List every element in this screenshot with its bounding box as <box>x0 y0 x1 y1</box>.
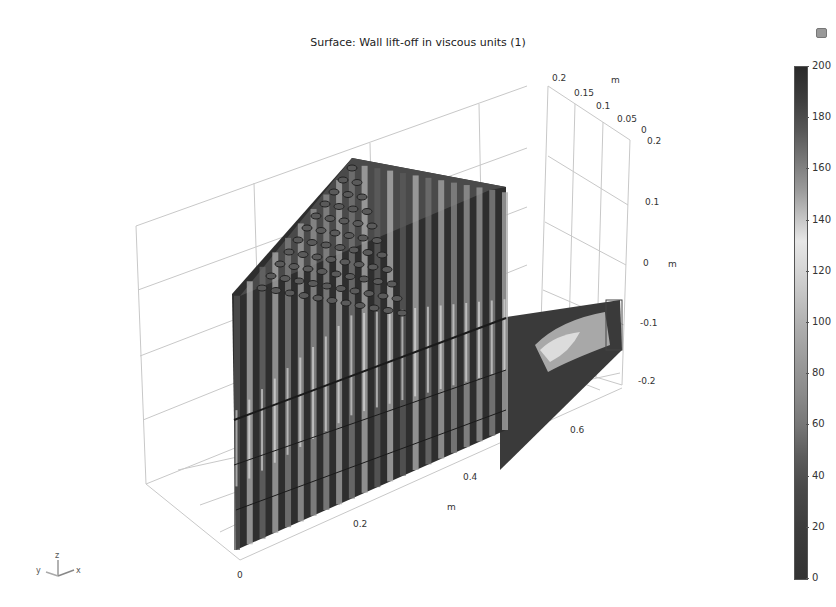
triad-y-label: y <box>36 566 41 575</box>
colorbar-tick-label: 60 <box>812 418 825 429</box>
triad-z-label: z <box>55 551 59 560</box>
3d-plot-area[interactable] <box>0 0 836 607</box>
colorbar-tick-label: 80 <box>812 367 825 378</box>
y-tick: 0 <box>641 125 647 135</box>
colorbar-tick-mark <box>806 476 809 477</box>
y-tick: 0.15 <box>574 88 594 98</box>
z-tick: -0.2 <box>638 376 656 386</box>
colorbar-tick-mark <box>806 322 809 323</box>
y-axis-label: m <box>611 75 620 85</box>
z-tick: -0.1 <box>640 318 658 328</box>
triad-x-label: x <box>76 566 81 575</box>
colorbar-tick-mark <box>806 66 809 67</box>
z-axis-label: m <box>668 259 677 269</box>
z-tick: 0.2 <box>647 136 661 146</box>
colorbar-tick-label: 140 <box>812 214 831 225</box>
colorbar-tick-mark <box>806 271 809 272</box>
axis-triad-icon: z x y <box>28 548 88 588</box>
x-axis-label: m <box>447 502 456 512</box>
colorbar-tick-label: 200 <box>812 60 831 71</box>
colorbar-tick-label: 0 <box>812 572 818 583</box>
colorbar-tick-label: 20 <box>812 521 825 532</box>
colorbar-tick-label: 120 <box>812 265 831 276</box>
colorbar-tick-mark <box>806 424 809 425</box>
outlet-duct <box>500 300 622 470</box>
colorbar-tick-mark <box>806 578 809 579</box>
colorbar-tick-mark <box>806 220 809 221</box>
y-tick: 0.05 <box>617 114 637 124</box>
z-tick: 0.1 <box>645 197 659 207</box>
y-tick: 0.2 <box>552 73 566 83</box>
z-tick: 0 <box>643 258 649 268</box>
y-tick: 0.1 <box>596 101 610 111</box>
colorbar-tick-label: 160 <box>812 162 831 173</box>
x-tick: 0.4 <box>463 472 477 482</box>
colorbar-tick-mark <box>806 527 809 528</box>
colorbar-tick-label: 180 <box>812 111 831 122</box>
colorbar-tick-mark <box>806 168 809 169</box>
colorbar-tick-mark <box>806 373 809 374</box>
x-tick: 0 <box>237 570 243 580</box>
colorbar-tick-label: 40 <box>812 470 825 481</box>
colorbar-tick-label: 100 <box>812 316 831 327</box>
colorbar <box>794 66 808 580</box>
x-tick: 0.6 <box>570 425 584 435</box>
x-tick: 0.2 <box>353 519 367 529</box>
colorbar-tick-mark <box>806 117 809 118</box>
